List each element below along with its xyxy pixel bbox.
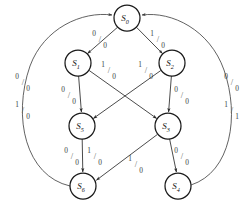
svg-text:0: 0 (185, 158, 189, 167)
edge-label-s0-s1: 0 / 0 (92, 29, 107, 50)
svg-text:0: 0 (235, 84, 239, 93)
svg-text:1: 1 (128, 154, 132, 163)
svg-text:0: 0 (149, 72, 153, 81)
slash-glyph: / (231, 77, 234, 87)
edge-label-s2-s5: 1 / 0 (138, 60, 153, 81)
edge-s1-to-s3 (89, 71, 156, 119)
slash-glyph: / (231, 105, 234, 115)
state-node-s5[interactable]: S5 (69, 113, 95, 139)
svg-text:0: 0 (174, 85, 178, 94)
state-node-s3[interactable]: S3 (155, 113, 181, 139)
edge-label-s3-s6: 1 / 0 (128, 154, 143, 175)
edge-label-s2-s3: 0 / 0 (174, 85, 189, 106)
edge-s5-to-s6 (82, 139, 83, 172)
svg-text:0: 0 (161, 41, 165, 50)
svg-text:0: 0 (185, 97, 189, 106)
svg-text:1: 1 (101, 60, 105, 69)
slash-glyph: / (99, 34, 102, 44)
svg-text:0: 0 (98, 158, 102, 167)
state-node-s4[interactable]: S4 (165, 173, 191, 199)
svg-text:0: 0 (224, 72, 228, 81)
edge-s1-to-s5 (79, 76, 82, 112)
return-arc-right-label-zero: 0 / 0 (224, 72, 239, 93)
edge-label-s5-s6-one: 1 / 0 (87, 146, 102, 167)
state-node-s2[interactable]: S2 (159, 50, 185, 76)
edge-label-s0-s2: 1 / 0 (150, 29, 165, 50)
slash-glyph: / (135, 159, 138, 169)
slash-glyph: / (68, 90, 71, 100)
slash-glyph: / (181, 151, 184, 161)
state-node-s6[interactable]: S6 (70, 173, 96, 199)
edge-s3-to-s4 (170, 139, 177, 172)
svg-text:0: 0 (26, 84, 30, 93)
slash-glyph: / (181, 90, 184, 100)
slash-glyph: / (94, 151, 97, 161)
state-node-s1[interactable]: S1 (65, 50, 91, 76)
slash-glyph: / (22, 77, 25, 87)
state-node-s0[interactable]: S0 (114, 5, 140, 31)
state-diagram-svg: S0 S1 S2 S5 S3 (0, 0, 250, 211)
svg-text:1: 1 (150, 29, 154, 38)
svg-text:0: 0 (72, 97, 76, 106)
return-arc-left-label-zero: 0 / 0 (15, 72, 30, 93)
slash-glyph: / (108, 65, 111, 75)
svg-text:0: 0 (61, 85, 65, 94)
slash-glyph: / (157, 34, 160, 44)
svg-text:1: 1 (138, 60, 142, 69)
svg-text:1: 1 (87, 146, 91, 155)
svg-text:0: 0 (92, 29, 96, 38)
svg-text:1: 1 (15, 100, 19, 109)
edge-label-s3-s4: 0 / 0 (174, 146, 189, 167)
slash-glyph: / (145, 65, 148, 75)
svg-text:0: 0 (139, 166, 143, 175)
edge-s2-to-s3 (169, 76, 172, 112)
svg-text:0: 0 (15, 72, 19, 81)
svg-text:0: 0 (103, 41, 107, 50)
svg-text:1: 1 (235, 112, 239, 121)
svg-text:0: 0 (26, 112, 30, 121)
svg-text:1: 1 (224, 100, 228, 109)
edge-label-s5-s6-zero: 0 / 0 (64, 146, 79, 167)
slash-glyph: / (22, 105, 25, 115)
svg-text:0: 0 (75, 158, 79, 167)
slash-glyph: / (71, 151, 74, 161)
svg-text:0: 0 (174, 146, 178, 155)
edge-label-s1-s3: 1 / 0 (101, 60, 116, 81)
svg-text:0: 0 (112, 72, 116, 81)
edge-label-s1-s5: 0 / 0 (61, 85, 76, 106)
state-diagram-canvas: S0 S1 S2 S5 S3 (0, 0, 250, 211)
svg-text:0: 0 (64, 146, 68, 155)
edge-s3-to-s6 (96, 135, 157, 181)
